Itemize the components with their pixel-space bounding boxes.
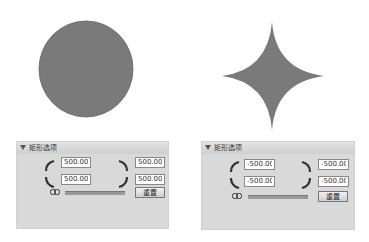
chain-link-icon[interactable]	[50, 189, 60, 195]
panel-title: 矩形选项	[29, 144, 57, 152]
reset-button[interactable]: 重置	[318, 191, 348, 202]
top-left-radius-field[interactable]	[61, 157, 91, 168]
collapse-triangle-icon[interactable]	[205, 145, 211, 150]
rectangle-options-panel: 矩形选项 重置	[201, 141, 355, 230]
corner-bracket-left-icon	[44, 159, 56, 189]
bottom-right-radius-field[interactable]	[318, 176, 349, 187]
bottom-left-radius-field[interactable]	[61, 174, 91, 185]
collapse-triangle-icon[interactable]	[20, 145, 26, 150]
top-right-radius-field[interactable]	[135, 157, 165, 168]
top-left-radius-field[interactable]	[244, 159, 275, 170]
panel-header[interactable]: 矩形选项	[17, 142, 168, 154]
panel-header[interactable]: 矩形选项	[202, 142, 354, 154]
star-shape-preview	[220, 20, 326, 132]
corner-bracket-right-icon	[117, 159, 129, 189]
panel-title: 矩形选项	[214, 144, 242, 152]
chain-link-icon[interactable]	[232, 193, 242, 199]
top-right-radius-field[interactable]	[318, 159, 349, 170]
radius-slider[interactable]	[248, 195, 308, 199]
circle-shape-preview	[38, 20, 134, 120]
radius-slider[interactable]	[65, 191, 125, 195]
bottom-left-radius-field[interactable]	[244, 176, 275, 187]
bottom-right-radius-field[interactable]	[135, 174, 165, 185]
corner-bracket-right-icon	[300, 160, 312, 190]
reset-button[interactable]: 重置	[135, 187, 165, 198]
corner-bracket-left-icon	[229, 160, 241, 190]
rectangle-options-panel: 矩形选项 重置	[16, 141, 169, 229]
